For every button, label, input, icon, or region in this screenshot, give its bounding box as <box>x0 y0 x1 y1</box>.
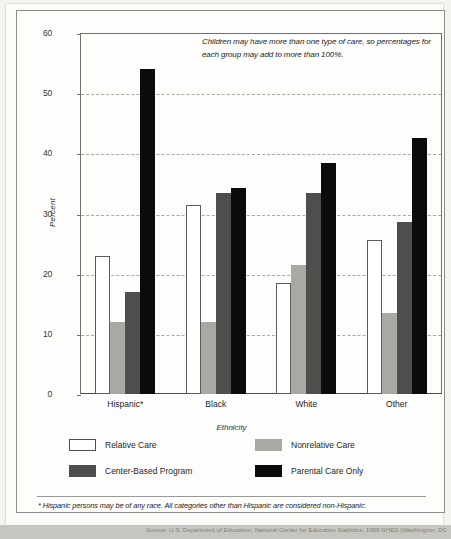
y-tick-label: 10 <box>26 329 52 339</box>
y-tick-mark <box>77 94 81 95</box>
legend-label: Center-Based Program <box>105 466 192 476</box>
bar-center <box>397 222 412 394</box>
legend-label: Parental Care Only <box>291 466 363 476</box>
legend-label: Relative Care <box>105 440 157 450</box>
bar-center <box>125 292 140 394</box>
legend-item: Parental Care Only <box>255 465 363 477</box>
x-tick-label: Black <box>171 399 261 409</box>
legend-item: Relative Care <box>69 439 157 451</box>
legend-swatch-parental <box>255 465 282 477</box>
source-text: Source: U.S. Department of Education, Na… <box>146 526 447 533</box>
bar-relative <box>276 283 291 394</box>
bar-parental <box>231 188 246 394</box>
bar-relative <box>186 205 201 394</box>
gridline <box>81 275 441 276</box>
bar-center <box>306 193 321 394</box>
y-tick-label: 50 <box>26 88 52 98</box>
x-tick-label: White <box>261 399 351 409</box>
gridline <box>81 154 441 155</box>
page-paper: Children may have more than one type of … <box>6 4 443 525</box>
figure-frame: Children may have more than one type of … <box>16 10 445 513</box>
legend-item: Center-Based Program <box>69 465 192 477</box>
bar-nonrelative <box>110 322 125 394</box>
y-tick-label: 0 <box>26 389 52 399</box>
y-tick-mark <box>77 395 81 396</box>
y-tick-mark <box>77 34 81 35</box>
bar-center <box>216 193 231 394</box>
gridline <box>81 215 441 216</box>
x-tick-label: Other <box>352 399 442 409</box>
y-tick-mark <box>77 215 81 216</box>
chart-legend: Relative CareNonrelative CareCenter-Base… <box>69 439 409 489</box>
bar-parental <box>140 69 155 394</box>
chart-footnote: * Hispanic persons may be of any race. A… <box>38 501 433 510</box>
legend-divider <box>37 496 426 497</box>
y-tick-label: 60 <box>26 28 52 38</box>
source-strip: Source: U.S. Department of Education, Na… <box>0 525 451 539</box>
scanned-page: Children may have more than one type of … <box>0 0 451 539</box>
legend-label: Nonrelative Care <box>291 440 355 450</box>
legend-item: Nonrelative Care <box>255 439 355 451</box>
x-axis-label: Ethnicity <box>17 423 446 432</box>
bar-parental <box>412 138 427 394</box>
legend-swatch-center <box>69 465 96 477</box>
y-tick-label: 40 <box>26 148 52 158</box>
bar-relative <box>367 240 382 394</box>
bar-nonrelative <box>201 322 216 394</box>
y-tick-mark <box>77 335 81 336</box>
x-tick-label: Hispanic* <box>80 399 170 409</box>
legend-swatch-relative <box>69 439 96 451</box>
y-tick-mark <box>77 275 81 276</box>
y-tick-mark <box>77 154 81 155</box>
bar-nonrelative <box>382 313 397 394</box>
gridline <box>81 94 441 95</box>
bar-nonrelative <box>291 265 306 394</box>
y-tick-label: 20 <box>26 269 52 279</box>
y-tick-label: 30 <box>26 209 52 219</box>
legend-swatch-nonrelative <box>255 439 282 451</box>
bar-relative <box>95 256 110 394</box>
bar-parental <box>321 163 336 394</box>
